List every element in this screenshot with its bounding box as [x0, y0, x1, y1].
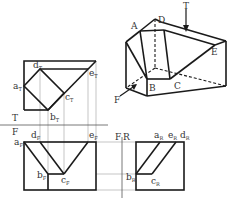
iso-label-c: C — [174, 81, 181, 91]
top-quad-abcd — [24, 69, 64, 110]
iso-edge — [147, 86, 226, 96]
iso-edge — [126, 31, 140, 42]
iso-hidden-edge — [155, 68, 226, 86]
label-e-t: eT — [89, 68, 98, 79]
arrow-head-icon — [131, 84, 137, 90]
iso-label-t: T — [183, 1, 189, 11]
front-edge-ec — [64, 142, 88, 174]
label-c-f: cF — [61, 175, 70, 186]
isometric-view: A D T E B C F — [114, 1, 226, 105]
right-view: aR eR dR bR cR — [126, 130, 190, 190]
label-c-r: cR — [151, 176, 160, 187]
iso-label-e: E — [211, 47, 218, 57]
label-b-r: bR — [126, 172, 136, 183]
front-view: aF dF eF bF cF — [14, 130, 98, 190]
label-e-f: eF — [89, 130, 98, 141]
front-outline — [24, 142, 96, 190]
label-c-t: cT — [65, 92, 74, 103]
iso-label-d: D — [158, 15, 165, 25]
label-a-r: aR — [154, 130, 163, 141]
top-view: dT aT eT cT bT — [13, 60, 98, 123]
fold-label-r: R — [123, 132, 130, 142]
fold-label-f: F — [12, 127, 18, 137]
iso-label-b: B — [149, 83, 156, 93]
label-d-f: dF — [31, 130, 41, 141]
iso-label-a: A — [130, 21, 138, 31]
iso-edge — [164, 30, 215, 45]
fold-label-f-side: F — [115, 132, 121, 142]
label-a-t: aT — [13, 81, 22, 92]
label-d-r: dR — [180, 130, 190, 141]
iso-edge — [164, 30, 170, 79]
projection-drawing: A D T E B C F T F F R dT aT eT cT — [0, 0, 233, 210]
fold-lines: T F F R — [0, 113, 130, 198]
label-b-t: bT — [50, 112, 60, 123]
iso-edge — [140, 30, 164, 31]
iso-edge — [140, 19, 155, 31]
label-a-f: aF — [14, 137, 23, 148]
iso-edge — [215, 41, 226, 45]
right-outline — [136, 142, 184, 190]
label-e-r: eR — [168, 130, 177, 141]
iso-label-f: F — [114, 95, 120, 105]
fold-label-t: T — [12, 113, 18, 123]
